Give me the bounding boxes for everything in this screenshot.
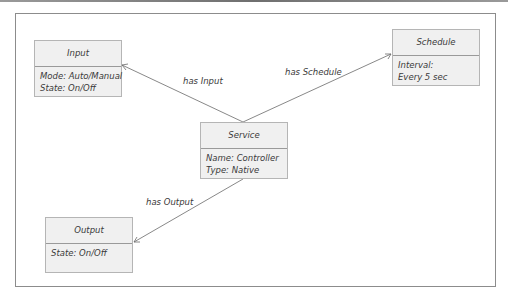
node-schedule[interactable]: Schedule Interval: Every 5 sec [392, 29, 480, 86]
edge-label-has-schedule: has Schedule [285, 67, 342, 77]
edge-label-has-input: has Input [183, 76, 223, 86]
node-input[interactable]: Input Mode: Auto/Manual State: On/Off [34, 40, 122, 97]
edge-has-input [122, 65, 243, 122]
attribute: Interval: [398, 60, 474, 72]
node-attributes: State: On/Off [46, 244, 132, 264]
attribute: Mode: Auto/Manual [40, 71, 116, 83]
node-service[interactable]: Service Name: Controller Type: Native [200, 122, 288, 179]
edge-has-schedule [243, 54, 391, 122]
attribute: State: On/Off [40, 83, 116, 95]
node-attributes: Mode: Auto/Manual State: On/Off [35, 67, 121, 98]
edge-has-output [134, 179, 243, 242]
node-attributes: Interval: Every 5 sec [393, 56, 479, 87]
edge-label-has-output: has Output [146, 197, 193, 207]
node-output[interactable]: Output State: On/Off [45, 217, 133, 273]
node-title: Schedule [393, 30, 479, 56]
node-title: Output [46, 218, 132, 244]
attribute: Every 5 sec [398, 72, 474, 84]
node-title: Input [35, 41, 121, 67]
attribute: State: On/Off [51, 248, 127, 260]
node-title: Service [201, 123, 287, 149]
attribute: Name: Controller [206, 153, 282, 165]
attribute: Type: Native [206, 165, 282, 177]
node-attributes: Name: Controller Type: Native [201, 149, 287, 180]
